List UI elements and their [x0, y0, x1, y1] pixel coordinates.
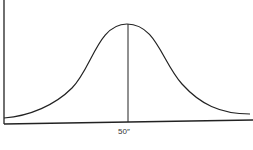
mean-label: 50″	[118, 127, 130, 136]
bell-curve	[4, 24, 250, 118]
